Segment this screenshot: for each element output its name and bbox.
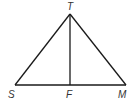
- label-s: S: [8, 89, 15, 100]
- label-f: F: [66, 89, 73, 100]
- segment-tm: [70, 14, 126, 85]
- triangle-diagram: T S F M: [0, 0, 130, 101]
- label-m: M: [118, 89, 127, 100]
- segment-ts: [15, 14, 70, 85]
- label-t: T: [67, 1, 74, 12]
